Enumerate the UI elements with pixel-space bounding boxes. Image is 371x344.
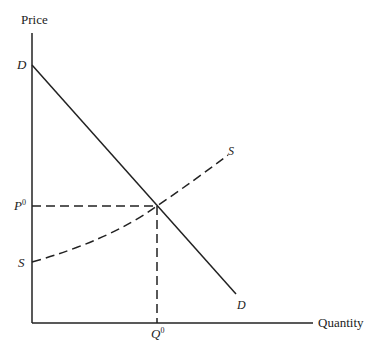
demand-label-bottom: D xyxy=(236,298,246,312)
equilibrium-price-label: P0 xyxy=(13,198,26,213)
supply-curve xyxy=(32,155,228,262)
demand-label-top: D xyxy=(16,57,27,72)
equilibrium-quantity-label: Q0 xyxy=(151,326,164,341)
y-axis-label: Price xyxy=(21,12,48,27)
supply-label-top: S xyxy=(228,144,234,158)
demand-curve xyxy=(32,65,236,294)
supply-demand-diagram: Price Quantity D D S S P0 Q0 xyxy=(0,0,371,344)
supply-label-bottom: S xyxy=(18,255,25,270)
x-axis-label: Quantity xyxy=(318,315,364,330)
